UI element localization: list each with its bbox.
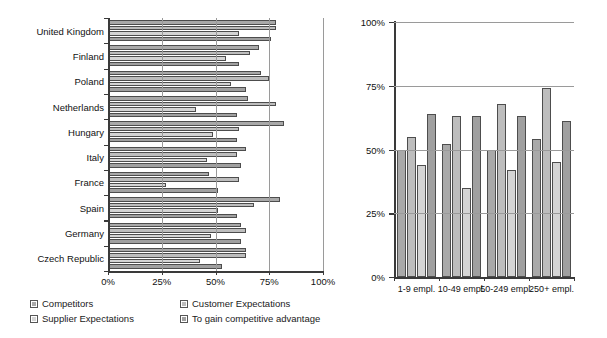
legend-item-label: Customer Expectations xyxy=(192,298,290,309)
legend-swatch-icon xyxy=(30,300,38,308)
legend-item: To gain competitive advantage xyxy=(180,313,320,324)
company-size-bar xyxy=(552,162,561,277)
country-bar xyxy=(108,239,241,244)
company-size-group-label: 250+ empl. xyxy=(522,283,582,295)
chart-by-country: United KingdomFinlandPolandNetherlandsHu… xyxy=(0,0,352,338)
country-gridline xyxy=(323,18,324,271)
country-bar xyxy=(108,127,239,132)
country-bar xyxy=(108,188,218,193)
country-y-tick xyxy=(104,195,109,196)
country-bar xyxy=(108,132,213,137)
legend-swatch-icon xyxy=(180,315,188,323)
country-bar xyxy=(108,51,250,56)
company-size-y-tick-label: 75% xyxy=(366,80,385,91)
country-bar xyxy=(108,37,271,42)
country-x-tick-label: 75% xyxy=(260,276,279,287)
country-gridline xyxy=(162,18,163,271)
country-y-tick xyxy=(104,271,109,272)
company-size-bar xyxy=(452,116,461,277)
country-bar xyxy=(108,62,239,67)
country-axis-label: Finland xyxy=(73,50,104,61)
legend-item: Supplier Expectations xyxy=(30,313,134,324)
company-size-gridline xyxy=(394,150,574,151)
chart-by-company-size: 0%25%50%75%100%1-9 empl.10-49 empl.50-24… xyxy=(352,0,607,338)
country-bar xyxy=(108,121,284,126)
country-bar xyxy=(108,163,241,168)
two-chart-figure: United KingdomFinlandPolandNetherlandsHu… xyxy=(0,0,607,338)
country-gridline xyxy=(216,18,217,271)
country-bar xyxy=(108,197,280,202)
country-y-tick xyxy=(104,145,109,146)
company-size-bar xyxy=(462,188,471,277)
company-size-gridline xyxy=(394,86,574,87)
country-y-tick xyxy=(104,18,109,19)
country-bar xyxy=(108,45,259,50)
country-bar xyxy=(108,223,241,228)
country-bar xyxy=(108,158,207,163)
country-bar xyxy=(108,20,276,25)
country-bar xyxy=(108,107,196,112)
country-bar xyxy=(108,31,239,36)
country-x-tick xyxy=(162,271,163,275)
company-size-x-tick xyxy=(574,277,575,281)
country-bar xyxy=(108,82,231,87)
country-bar xyxy=(108,56,226,61)
legend-item-label: Supplier Expectations xyxy=(42,313,134,324)
company-size-bar xyxy=(497,104,506,277)
country-bar xyxy=(108,71,261,76)
country-axis-label: United Kingdom xyxy=(36,25,104,36)
country-y-tick xyxy=(104,220,109,221)
country-bar xyxy=(108,177,239,182)
legend-item-label: To gain competitive advantage xyxy=(192,313,320,324)
company-size-y-tick xyxy=(389,150,394,151)
company-size-bar xyxy=(407,137,416,277)
country-x-tick-label: 25% xyxy=(152,276,171,287)
company-size-bar xyxy=(517,116,526,277)
country-bar xyxy=(108,96,248,101)
company-size-y-tick-label: 0% xyxy=(371,272,385,283)
company-size-bar xyxy=(532,139,541,277)
company-size-bar xyxy=(472,116,481,277)
country-y-tick xyxy=(104,119,109,120)
country-bar xyxy=(108,87,246,92)
country-bar xyxy=(108,113,237,118)
country-bar xyxy=(108,214,237,219)
country-bar xyxy=(108,248,246,253)
country-x-tick-label: 50% xyxy=(206,276,225,287)
company-size-x-tick xyxy=(484,277,485,281)
company-size-bar xyxy=(562,121,571,277)
country-bar xyxy=(108,138,237,143)
company-size-bar xyxy=(442,144,451,277)
country-x-tick xyxy=(269,271,270,275)
country-bar xyxy=(108,76,269,81)
country-y-tick xyxy=(104,43,109,44)
legend-swatch-icon xyxy=(30,315,38,323)
country-y-tick xyxy=(104,94,109,95)
country-x-tick-label: 100% xyxy=(311,276,335,287)
country-bar xyxy=(108,253,246,258)
company-size-x-tick xyxy=(439,277,440,281)
company-size-y-tick xyxy=(389,22,394,23)
country-axis-label: Czech Republic xyxy=(37,253,104,264)
country-axis-label: Netherlands xyxy=(53,101,104,112)
company-size-y-tick-label: 25% xyxy=(366,208,385,219)
company-size-x-tick xyxy=(529,277,530,281)
company-size-bar xyxy=(417,165,426,277)
legend-item: Competitors xyxy=(30,298,93,309)
legend-item: Customer Expectations xyxy=(180,298,290,309)
country-bar xyxy=(108,26,276,31)
country-bar xyxy=(108,228,246,233)
legend-swatch-icon xyxy=(180,300,188,308)
country-y-tick xyxy=(104,69,109,70)
country-axis-label: Poland xyxy=(74,76,104,87)
country-bar xyxy=(108,208,218,213)
country-axis-label: Spain xyxy=(80,202,104,213)
country-bar xyxy=(108,183,166,188)
country-bar xyxy=(108,259,200,264)
country-x-tick xyxy=(216,271,217,275)
country-y-tick xyxy=(104,246,109,247)
company-size-gridline xyxy=(394,22,574,23)
company-size-bar xyxy=(542,88,551,277)
company-size-gridline xyxy=(394,213,574,214)
company-size-bar xyxy=(427,114,436,277)
